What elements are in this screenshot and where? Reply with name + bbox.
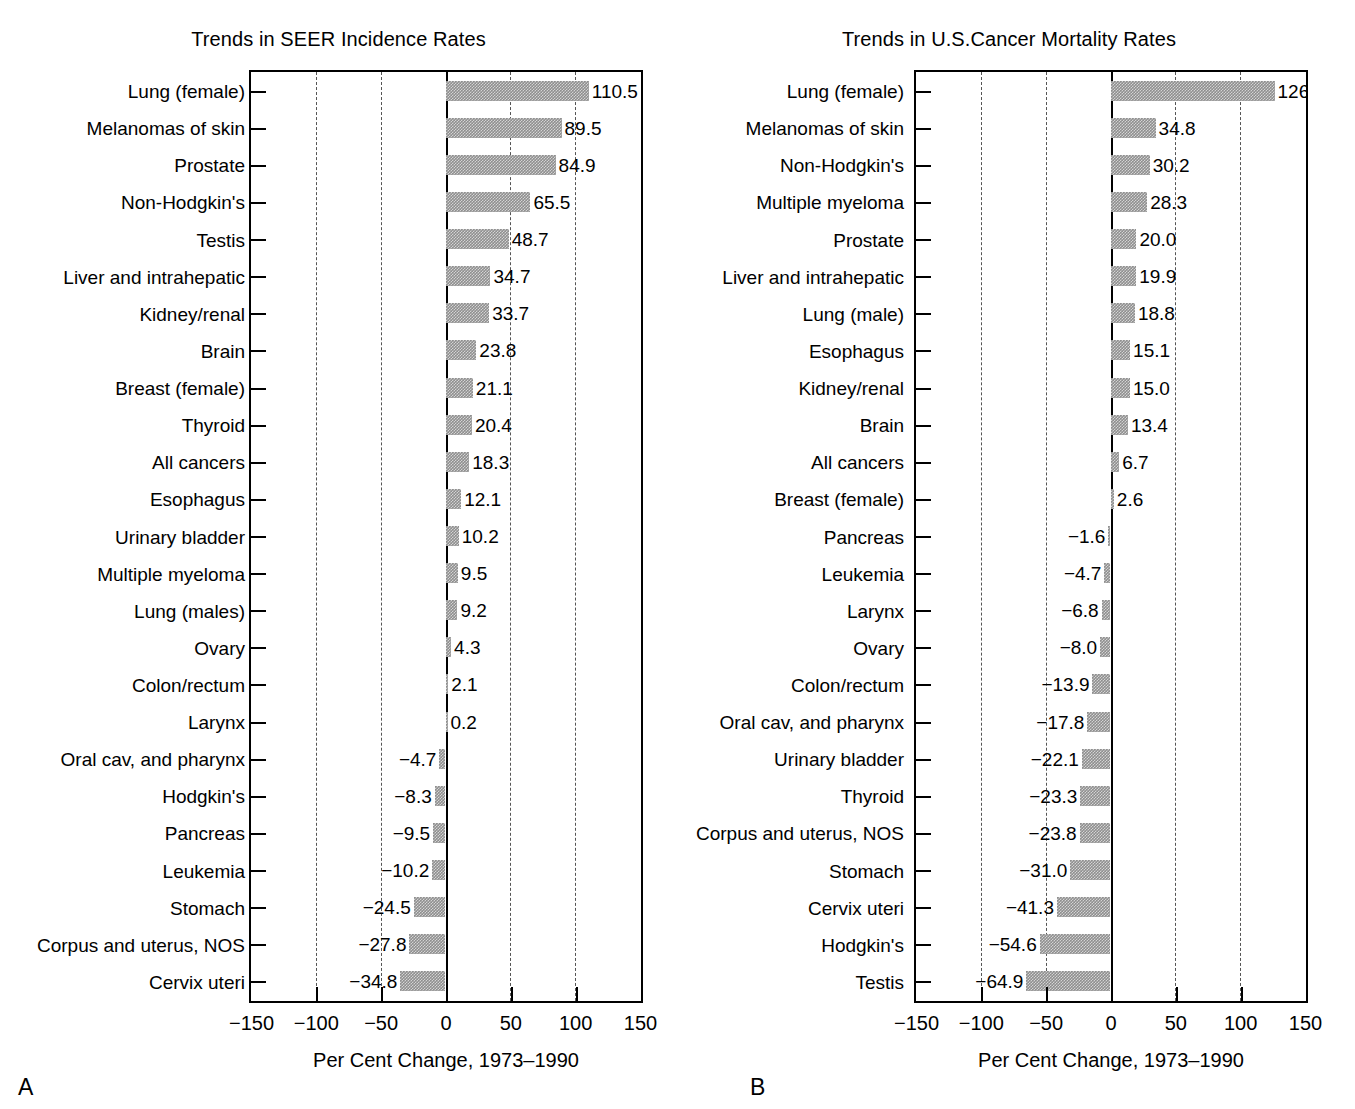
category-tick xyxy=(251,239,266,241)
category-label: Urinary bladder xyxy=(668,750,904,769)
x-tick-label: 100 xyxy=(1224,1013,1257,1033)
category-label: Breast (female) xyxy=(668,490,904,509)
category-tick xyxy=(251,981,266,983)
category-tick xyxy=(251,462,266,464)
category-label: Lung (female) xyxy=(0,82,245,101)
category-label: Thyroid xyxy=(668,787,904,806)
category-label: Lung (males) xyxy=(0,601,245,620)
category-tick xyxy=(251,91,266,93)
bar xyxy=(446,526,459,546)
category-label: Leukemia xyxy=(668,564,904,583)
bar-value-label: −41.3 xyxy=(1006,898,1054,917)
x-tick-100 xyxy=(576,987,578,1001)
category-label: Pancreas xyxy=(668,527,904,546)
category-tick xyxy=(251,944,266,946)
category-tick xyxy=(251,722,266,724)
bar-row: −23.8 xyxy=(916,814,1306,851)
bar-value-label: 9.5 xyxy=(461,564,487,583)
x-tick-label: 0 xyxy=(1105,1013,1116,1033)
bar-value-label: −13.9 xyxy=(1041,675,1089,694)
category-tick xyxy=(916,647,931,649)
bar-row: 21.1 xyxy=(251,369,641,406)
category-tick xyxy=(251,202,266,204)
bar xyxy=(1080,786,1110,806)
category-tick xyxy=(251,128,266,130)
x-tick-0 xyxy=(446,987,448,1001)
bar xyxy=(435,786,446,806)
category-tick xyxy=(916,425,931,427)
x-tick-label: 100 xyxy=(559,1013,592,1033)
category-label: Lung (female) xyxy=(668,82,904,101)
x-tick-label: 150 xyxy=(1289,1013,1322,1033)
bar xyxy=(446,81,589,101)
plot-area-a: 110.589.584.965.548.734.733.723.821.120.… xyxy=(251,72,641,1001)
bar-value-label: −22.1 xyxy=(1031,749,1079,768)
bar-value-label: 21.1 xyxy=(476,378,513,397)
bar xyxy=(1111,155,1150,175)
bar-row: 84.9 xyxy=(251,146,641,183)
category-tick xyxy=(251,425,266,427)
bar-row: 34.8 xyxy=(916,109,1306,146)
x-tick-label: −150 xyxy=(229,1013,274,1033)
bar xyxy=(1111,303,1135,323)
bar-value-label: 12.1 xyxy=(464,489,501,508)
category-tick xyxy=(251,165,266,167)
bar-row: 110.5 xyxy=(251,72,641,109)
category-tick xyxy=(251,647,266,649)
category-tick xyxy=(251,907,266,909)
bar xyxy=(1080,823,1111,843)
bar-value-label: −1.6 xyxy=(1068,526,1106,545)
panel-letter-b: B xyxy=(750,1076,765,1099)
bar-value-label: 9.2 xyxy=(460,601,486,620)
category-tick xyxy=(251,796,266,798)
category-tick xyxy=(916,907,931,909)
bar-value-label: 48.7 xyxy=(512,230,549,249)
bar xyxy=(409,934,445,954)
bar-row: −9.5 xyxy=(251,814,641,851)
category-tick xyxy=(916,165,931,167)
bar-value-label: 28.3 xyxy=(1150,192,1187,211)
category-label: Lung (male) xyxy=(668,304,904,323)
bar-row: −27.8 xyxy=(251,926,641,963)
bar xyxy=(446,229,509,249)
bar xyxy=(446,452,470,472)
bar-value-label: −9.5 xyxy=(393,823,431,842)
bar-value-label: 33.7 xyxy=(492,304,529,323)
category-label: Brain xyxy=(668,416,904,435)
bar xyxy=(446,637,452,657)
category-tick xyxy=(916,833,931,835)
bar-row: 48.7 xyxy=(251,220,641,257)
category-tick xyxy=(251,610,266,612)
x-axis-title-a: Per Cent Change, 1973–1990 xyxy=(249,1049,643,1072)
bar-value-label: −6.8 xyxy=(1061,601,1099,620)
bar-value-label: 110.5 xyxy=(592,81,638,100)
bar xyxy=(446,489,462,509)
category-tick xyxy=(916,981,931,983)
category-label: Oral cav, and pharynx xyxy=(0,750,245,769)
plot-area-b: 126.534.830.228.320.019.918.815.115.013.… xyxy=(916,72,1306,1001)
x-tick--50 xyxy=(1046,987,1048,1001)
bar-value-label: −10.2 xyxy=(381,861,429,880)
x-tick-label: −150 xyxy=(894,1013,939,1033)
category-tick xyxy=(916,91,931,93)
bar xyxy=(1111,229,1137,249)
bar-row: −4.7 xyxy=(916,555,1306,592)
bar-value-label: 2.1 xyxy=(451,675,477,694)
bar-row: −31.0 xyxy=(916,852,1306,889)
category-tick xyxy=(916,462,931,464)
bar-row: −13.9 xyxy=(916,666,1306,703)
bar xyxy=(446,378,473,398)
category-label: Hodgkin's xyxy=(668,935,904,954)
category-label: Breast (female) xyxy=(0,379,245,398)
chart-title-b: Trends in U.S.Cancer Mortality Rates xyxy=(694,28,1324,51)
bar-value-label: −54.6 xyxy=(989,935,1037,954)
category-tick xyxy=(916,388,931,390)
bar xyxy=(1087,712,1110,732)
category-label: Non-Hodgkin's xyxy=(0,193,245,212)
category-tick xyxy=(251,388,266,390)
category-label: Testis xyxy=(668,972,904,991)
category-label: Testis xyxy=(0,230,245,249)
bar-row: 20.0 xyxy=(916,220,1306,257)
category-tick xyxy=(916,573,931,575)
panel-b: Trends in U.S.Cancer Mortality Rates 126… xyxy=(678,0,1355,1109)
